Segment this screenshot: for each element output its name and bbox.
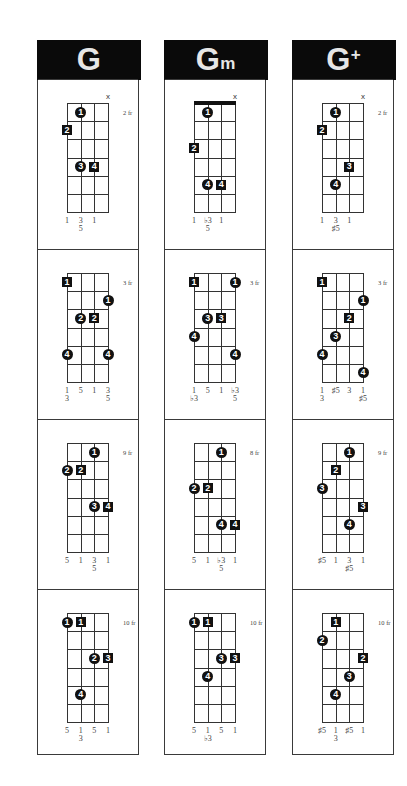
interval-text: 1	[201, 557, 215, 565]
finger-circle-marker: 3	[75, 161, 86, 172]
fret-line	[67, 534, 109, 535]
fret-line	[194, 121, 236, 122]
fret-line	[322, 273, 364, 274]
interval-label: 3	[342, 387, 356, 395]
fret-line	[67, 103, 109, 104]
interval-label: 13	[315, 387, 329, 403]
interval-text: ♯5	[356, 395, 370, 403]
fret-line	[67, 479, 109, 480]
finger-square-marker: 4	[216, 180, 226, 190]
barre-bar	[194, 101, 236, 105]
interval-label: 35	[74, 217, 88, 233]
fretboard-grid: 12234	[67, 443, 108, 552]
interval-text: 1	[329, 557, 343, 565]
muted-string-x-icon: x	[106, 92, 110, 101]
interval-text: 1	[356, 557, 370, 565]
interval-label: 1	[356, 727, 370, 735]
fret-line	[194, 328, 236, 329]
interval-text: 1	[228, 727, 242, 735]
chord-diagram: 1123443 fr13♯531♯5	[293, 249, 393, 419]
fret-line	[67, 194, 109, 195]
chord-suffix: m	[220, 55, 235, 72]
fret-line	[194, 291, 236, 292]
interval-label: 13	[329, 727, 343, 743]
fret-line	[194, 443, 236, 444]
chord-suffix: +	[351, 46, 361, 63]
finger-square-marker: 3	[344, 162, 354, 172]
chord-name: G	[77, 44, 101, 75]
finger-circle-marker: 1	[344, 447, 355, 458]
fret-line	[322, 158, 364, 159]
interval-text: 5	[60, 727, 74, 735]
interval-text: 1	[74, 557, 88, 565]
chord-diagram: x12342 fr13♯51	[293, 79, 393, 249]
fret-line	[322, 212, 364, 213]
finger-circle-marker: 4	[189, 331, 200, 342]
interval-label: 3♯5	[342, 557, 356, 573]
finger-square-marker: 1	[203, 617, 213, 627]
fret-position-label: 2 fr	[378, 109, 387, 116]
interval-label: 1	[60, 217, 74, 225]
finger-circle-marker: 4	[358, 367, 369, 378]
interval-label: ♯5	[329, 387, 343, 395]
interval-label: 1	[87, 387, 101, 395]
chord-diagram: 123349 fr♯513♯51	[293, 419, 393, 589]
fret-line	[67, 346, 109, 347]
finger-circle-marker: 4	[62, 349, 73, 360]
fret-line	[322, 194, 364, 195]
fretboard-grid: 12334	[322, 443, 363, 552]
interval-text: 5	[74, 225, 88, 233]
interval-text: 1	[60, 217, 74, 225]
finger-square-marker: 1	[331, 617, 341, 627]
interval-text: 1	[101, 557, 115, 565]
interval-label: ♯5	[342, 727, 356, 735]
fret-line	[67, 686, 109, 687]
interval-text: 5	[74, 387, 88, 395]
fret-line	[322, 704, 364, 705]
fret-position-label: 2 fr	[123, 109, 132, 116]
fret-line	[194, 176, 236, 177]
finger-square-marker: 2	[344, 313, 354, 323]
fret-line	[322, 479, 364, 480]
interval-label: 35	[87, 557, 101, 573]
fret-line	[322, 291, 364, 292]
fret-position-label: 10 fr	[123, 619, 135, 626]
finger-circle-marker: 1	[189, 617, 200, 628]
fret-line	[322, 103, 364, 104]
fretboard-grid: 12234	[322, 613, 363, 722]
fret-line	[67, 668, 109, 669]
interval-label: 1	[187, 217, 201, 225]
interval-text: 3	[329, 735, 343, 743]
fret-position-label: 10 fr	[378, 619, 390, 626]
fret-line	[67, 121, 109, 122]
chord-header: G+	[292, 40, 396, 80]
chord-column-gaug: G+x12342 fr13♯511123443 fr13♯531♯5123349…	[292, 40, 394, 755]
finger-square-marker: 1	[76, 617, 86, 627]
fret-line	[194, 479, 236, 480]
fret-position-label: 3 fr	[250, 279, 259, 286]
interval-text: 1	[342, 217, 356, 225]
finger-square-marker: 2	[358, 653, 368, 663]
interval-label: 1	[101, 727, 115, 735]
interval-text: ♯5	[315, 727, 329, 735]
interval-label: 1	[87, 217, 101, 225]
fret-line	[194, 534, 236, 535]
chord-diagram: 122349 fr51351	[38, 419, 138, 589]
interval-text: 3	[315, 395, 329, 403]
interval-text: ♯5	[329, 387, 343, 395]
interval-label: 35	[101, 387, 115, 403]
finger-square-marker: 4	[89, 162, 99, 172]
fret-line	[322, 631, 364, 632]
interval-label: 5	[74, 387, 88, 395]
chord-column-gm: Gmx12441♭3511133443 fr1♭351♭35122448 fr5…	[164, 40, 266, 755]
fret-position-label: 10 fr	[250, 619, 262, 626]
finger-square-marker: 3	[216, 313, 226, 323]
interval-text: ♯5	[315, 557, 329, 565]
finger-square-marker: 1	[62, 277, 72, 287]
interval-label: 5	[60, 557, 74, 565]
finger-square-marker: 2	[89, 313, 99, 323]
interval-text: 1	[315, 217, 329, 225]
interval-text: 1	[187, 217, 201, 225]
fret-line	[67, 364, 109, 365]
interval-text: 5	[101, 395, 115, 403]
